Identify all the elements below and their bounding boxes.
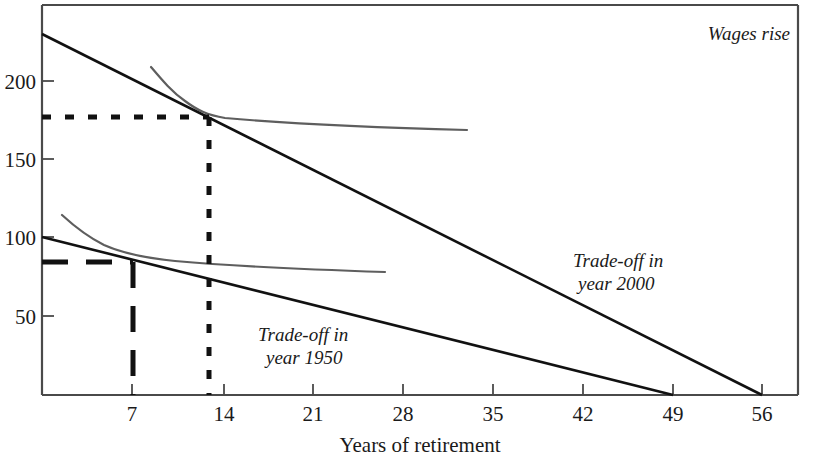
guide-optimum-1950 <box>42 262 133 395</box>
annotation-tradeoff-1950-line1: Trade-off in <box>258 324 348 345</box>
tradeoff-line-2000 <box>42 34 762 395</box>
annotation-tradeoff-2000-line1: Trade-off in <box>573 250 663 271</box>
y-tick-label-200: 200 <box>5 70 37 94</box>
chart-frame <box>42 5 798 395</box>
x-tick-label-42: 42 <box>573 402 594 426</box>
annotation-tradeoff-2000-line2: year 2000 <box>576 273 655 294</box>
x-tick-label-35: 35 <box>483 402 504 426</box>
x-tick-label-21: 21 <box>303 402 324 426</box>
x-axis-tick-labels: 7 14 21 28 35 42 49 56 <box>127 402 773 426</box>
x-tick-label-28: 28 <box>393 402 414 426</box>
x-tick-label-56: 56 <box>752 402 773 426</box>
retirement-tradeoff-chart: 200 150 100 50 7 14 21 28 35 42 49 56 <box>0 0 814 460</box>
annotation-tradeoff-1950-line2: year 1950 <box>264 347 343 368</box>
x-axis-title: Years of retirement <box>339 433 500 457</box>
x-tick-label-14: 14 <box>214 402 236 426</box>
y-tick-label-150: 150 <box>5 148 37 172</box>
guide-optimum-2000 <box>42 117 209 395</box>
y-tick-label-100: 100 <box>5 226 37 250</box>
indifference-curve-2000 <box>151 67 467 130</box>
y-tick-label-50: 50 <box>15 305 36 329</box>
x-tick-label-7: 7 <box>127 402 138 426</box>
annotation-wages-rise: Wages rise <box>708 23 790 44</box>
y-axis-tick-labels: 200 150 100 50 <box>5 70 37 329</box>
chart-canvas: 200 150 100 50 7 14 21 28 35 42 49 56 <box>0 0 814 460</box>
x-tick-label-49: 49 <box>663 402 684 426</box>
